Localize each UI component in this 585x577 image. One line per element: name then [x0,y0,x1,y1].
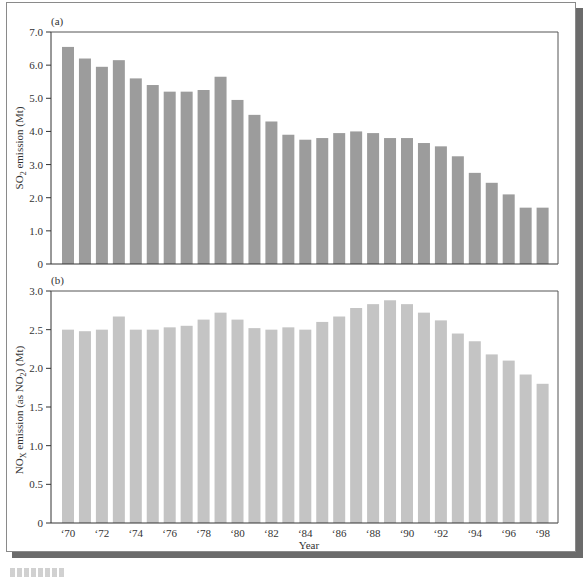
x-tick-label: ‘90 [400,527,415,539]
bar-1985 [316,322,328,523]
bar-1973 [113,317,125,523]
bar-1991 [418,313,430,523]
bar-1978 [198,90,210,264]
so2-bars [62,47,549,264]
y-tick-label: 1.0 [29,440,43,452]
y-tick-label: 5.0 [29,92,43,104]
bar-1980 [232,100,244,264]
so2-chart: (a) 01.02.03.04.05.06.07.0 SO2 emission … [13,15,558,270]
bar-1986 [333,317,345,523]
bar-1975 [147,330,159,523]
x-tick-label: ‘76 [162,527,177,539]
bar-1976 [164,327,176,523]
nox-y-axis-title: NOX emission (as NO2) (Mt) [13,346,28,475]
bar-1990 [401,138,413,264]
bar-1987 [350,308,362,523]
y-tick-label: 1.5 [29,401,43,413]
bar-1994 [469,173,481,264]
bar-1980 [232,320,244,523]
bar-1974 [130,330,142,523]
y-tick-label: 6.0 [29,59,43,71]
bar-1983 [282,327,294,523]
bar-1998 [537,384,549,523]
x-tick-label: ‘84 [298,527,313,539]
bar-1982 [265,330,277,523]
bar-1970 [62,330,74,523]
y-tick-label: 2.0 [29,192,43,204]
y-tick-label: 1.0 [29,225,43,237]
y-tick-label: 2.0 [29,362,43,374]
bar-1991 [418,143,430,264]
nox-bars [62,300,549,523]
bar-1997 [520,375,532,523]
x-tick-label: ‘92 [434,527,449,539]
x-axis-title: Year [299,539,320,551]
panel-label-b: (b) [51,274,64,287]
bar-1998 [537,208,549,264]
so2-y-ticks: 01.02.03.04.05.06.07.0 [29,26,51,270]
x-tick-label: ‘80 [230,527,245,539]
bar-1992 [435,320,447,523]
bar-1970 [62,47,74,264]
bar-1981 [248,328,260,523]
bar-1972 [96,67,108,264]
bar-1994 [469,341,481,523]
bar-1974 [130,78,142,264]
x-tick-label: ‘94 [467,527,482,539]
y-tick-label: 3.0 [29,285,43,297]
bar-1979 [215,313,227,523]
bar-1992 [435,146,447,264]
bar-1986 [333,133,345,264]
y-tick-label: 0 [38,517,44,529]
x-tick-label: ‘78 [196,527,211,539]
bar-1976 [164,92,176,264]
x-tick-label: ‘98 [535,527,550,539]
bar-1990 [401,304,413,523]
bar-1977 [181,326,193,523]
x-tick-label: ‘70 [61,527,76,539]
bar-1982 [265,121,277,264]
bar-1987 [350,131,362,264]
y-tick-label: 4.0 [29,125,43,137]
bar-1973 [113,60,125,264]
figure-charts: (a) 01.02.03.04.05.06.07.0 SO2 emission … [0,0,585,577]
y-tick-label: 2.5 [29,324,43,336]
nox-y-ticks: 00.51.01.52.02.53.0 [29,285,51,529]
x-tick-label: ‘86 [332,527,347,539]
y-tick-label: 7.0 [29,26,43,38]
bar-1978 [198,320,210,523]
bar-1993 [452,156,464,264]
bar-1989 [384,300,396,523]
bar-1972 [96,330,108,523]
bar-1979 [215,77,227,264]
bar-1977 [181,92,193,264]
bar-1984 [299,330,311,523]
bar-1995 [486,354,498,523]
x-tick-label: ‘74 [128,527,143,539]
bar-1989 [384,138,396,264]
panel-label-a: (a) [51,15,64,28]
bar-1997 [520,208,532,264]
bar-1985 [316,138,328,264]
x-tick-label: ‘88 [366,527,381,539]
x-tick-label: ‘72 [95,527,110,539]
bar-1996 [503,361,515,523]
y-tick-label: 0.5 [29,478,43,490]
bar-1993 [452,334,464,523]
bar-1971 [79,331,91,523]
bar-1995 [486,183,498,264]
bar-1983 [282,135,294,264]
y-tick-label: 0 [38,258,44,270]
x-axis-year-ticks: ‘70‘72‘74‘76‘78‘80‘82‘84‘86‘88‘90‘92‘94‘… [61,527,551,539]
bar-1975 [147,85,159,264]
nox-chart: (b) 00.51.01.52.02.53.0 ‘70‘72‘74‘76‘78‘… [13,274,558,551]
bar-1996 [503,194,515,264]
so2-y-axis-title: SO2 emission (Mt) [13,106,28,189]
bar-1984 [299,140,311,264]
bar-1981 [248,115,260,264]
x-tick-label: ‘96 [501,527,516,539]
x-tick-label: ‘82 [264,527,279,539]
y-tick-label: 3.0 [29,159,43,171]
bar-1988 [367,304,379,523]
bar-1988 [367,133,379,264]
